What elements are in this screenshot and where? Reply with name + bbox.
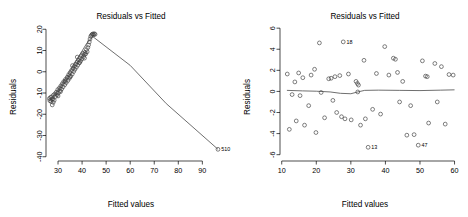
x-tick-label: 60 [126, 166, 134, 175]
outlier-label: 18 [346, 39, 352, 45]
data-point [314, 131, 318, 135]
data-point [331, 98, 335, 102]
data-point [363, 117, 367, 121]
y-tick-label: -20 [35, 109, 44, 119]
data-point [340, 115, 344, 119]
x-tick-label: 10 [278, 166, 286, 175]
x-tick-label: 40 [381, 166, 389, 175]
outlier-label: 13 [371, 144, 377, 150]
data-point [335, 111, 339, 115]
y-tick-label: -10 [35, 88, 44, 98]
x-tick-label: 30 [54, 166, 62, 175]
loess-smoother [287, 90, 455, 94]
data-point [297, 71, 301, 75]
data-point [338, 74, 342, 78]
y-tick-label: 0 [35, 70, 44, 74]
y-tick-label: -6 [269, 151, 278, 157]
y-tick-label: 2 [269, 68, 278, 72]
loess-smoother [51, 37, 218, 150]
outlier-label: 510 [221, 146, 230, 152]
data-point [287, 127, 291, 131]
y-tick-label: -4 [269, 130, 278, 136]
data-point [401, 80, 405, 84]
data-point [313, 67, 317, 71]
axis-lines [46, 29, 202, 161]
data-point [359, 123, 363, 127]
data-point [347, 72, 351, 76]
x-tick-label: 30 [347, 166, 355, 175]
data-point [294, 119, 298, 123]
y-tick-label: -40 [35, 152, 44, 162]
data-point [387, 73, 391, 77]
x-axis-label: Fitted values [342, 200, 388, 209]
data-point [451, 73, 455, 77]
reference-line [51, 37, 218, 150]
y-axis-label: Residuals [9, 79, 18, 115]
y-tick-label: 4 [269, 47, 278, 51]
data-point [307, 104, 311, 108]
data-point [50, 103, 54, 107]
data-point [409, 104, 413, 108]
data-point [318, 41, 322, 45]
axis-lines [280, 28, 455, 161]
data-point [323, 116, 327, 120]
data-point [329, 76, 333, 80]
data-point [362, 58, 366, 62]
data-point [341, 40, 345, 44]
y-axis-label: Residuals [243, 79, 252, 115]
data-point [396, 71, 400, 75]
x-tick-label: 40 [78, 166, 86, 175]
x-axis-ticks: 30405060708090 [54, 161, 206, 175]
data-point [435, 100, 439, 104]
data-point [293, 80, 297, 84]
y-axis-ticks: 6420-2-4-6 [269, 26, 281, 158]
y-tick-label: 10 [35, 47, 44, 55]
data-point [303, 123, 307, 127]
data-point [343, 117, 347, 121]
x-tick-label: 50 [102, 166, 110, 175]
data-point [427, 121, 431, 125]
plot-panel-left: Residuals vs Fitted Fitted values Residu… [0, 0, 234, 217]
loess-smoother-line [287, 90, 455, 94]
y-tick-label: -30 [35, 130, 44, 140]
y-axis-ticks: 20100-10-20-30-40 [35, 25, 47, 162]
data-point [375, 72, 379, 76]
data-points [47, 32, 219, 151]
data-point [421, 59, 425, 63]
y-tick-label: 6 [269, 26, 278, 30]
x-tick-label: 60 [451, 166, 459, 175]
x-tick-label: 90 [198, 166, 206, 175]
data-point [349, 118, 353, 122]
data-point [298, 94, 302, 98]
y-tick-label: 20 [35, 25, 44, 33]
plot-svg-left: Residuals vs Fitted Fitted values Residu… [0, 0, 234, 217]
data-point [398, 100, 402, 104]
data-point [366, 145, 370, 149]
data-point [301, 76, 305, 80]
data-point [290, 93, 294, 97]
data-point [440, 65, 444, 69]
x-tick-label: 20 [312, 166, 320, 175]
outlier-label: 47 [421, 142, 427, 148]
plot-svg-right: Residuals vs Fitted Fitted values Residu… [234, 0, 468, 217]
data-point [285, 72, 289, 76]
data-point [433, 62, 437, 66]
plot-title: Residuals vs Fitted [96, 12, 166, 21]
data-point [333, 75, 337, 79]
y-tick-label: -2 [269, 109, 278, 115]
data-point [383, 45, 387, 49]
y-tick-label: 0 [269, 89, 278, 93]
x-tick-label: 50 [416, 166, 424, 175]
x-axis-label: Fitted values [108, 200, 154, 209]
data-point [412, 133, 416, 137]
figure-container: Residuals vs Fitted Fitted values Residu… [0, 0, 468, 217]
data-point [371, 107, 375, 111]
data-points [285, 40, 455, 149]
x-axis-ticks: 102030405060 [278, 161, 459, 175]
data-point [379, 112, 383, 116]
data-point [405, 133, 409, 137]
x-tick-label: 80 [174, 166, 182, 175]
point-annotations: 510 [221, 146, 230, 152]
plot-panel-right: Residuals vs Fitted Fitted values Residu… [234, 0, 468, 217]
data-point [416, 143, 420, 147]
